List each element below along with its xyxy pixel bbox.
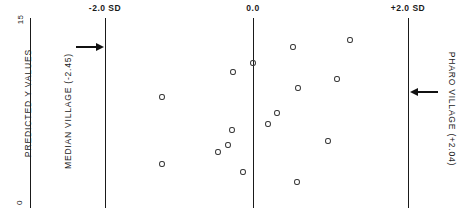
data-point	[225, 142, 230, 148]
data-point	[274, 110, 279, 116]
data-point	[229, 127, 234, 133]
annotation-median-village-label: MEDIAN VILLAGE (-2.45)	[63, 41, 73, 181]
reference-label-zero: 0.0	[246, 3, 259, 13]
data-point	[295, 85, 300, 91]
data-point	[159, 161, 164, 167]
data-point	[230, 69, 235, 75]
y-axis-tick-max: 15	[16, 15, 25, 25]
y-axis-title: PREDICTED Y VALUES	[23, 28, 33, 178]
reference-line-plus-2sd	[408, 18, 409, 208]
scatter-plot-figure: PREDICTED Y VALUES 15 0 -2.0 SD 0.0 +2.0…	[0, 0, 461, 222]
data-point	[215, 149, 220, 155]
annotation-pharo-village-label: PHARO VILLAGE (+2.04)	[447, 29, 457, 189]
data-point	[250, 60, 255, 66]
data-point	[159, 94, 164, 100]
data-point	[325, 138, 330, 144]
reference-label-minus-2sd: -2.0 SD	[89, 3, 121, 13]
reference-line-minus-2sd	[105, 18, 106, 208]
reference-label-plus-2sd: +2.0 SD	[391, 3, 425, 13]
data-point	[290, 44, 295, 50]
data-point	[240, 169, 245, 175]
reference-line-zero	[253, 18, 254, 208]
data-point	[265, 121, 270, 127]
data-point	[334, 76, 339, 82]
y-axis-tick-min: 0	[15, 200, 24, 205]
data-point	[347, 37, 352, 43]
data-point	[294, 179, 299, 185]
